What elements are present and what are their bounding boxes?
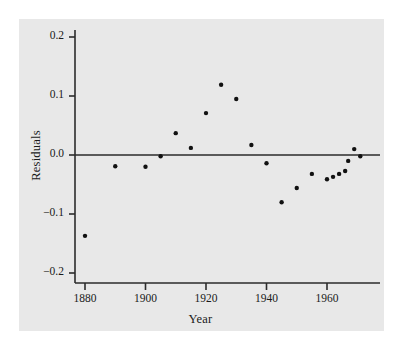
x-tick-label: 1920 [176,292,236,304]
axes-group [75,30,380,283]
data-point [279,200,283,204]
data-point [143,165,147,169]
y-axis-title: Residuals [29,111,44,201]
x-tick-label: 1880 [55,292,115,304]
data-point [234,97,238,101]
data-point [204,111,208,115]
data-point [264,161,268,165]
data-point [352,147,356,151]
data-point [158,154,162,158]
y-tick-label: −0.2 [12,265,64,277]
data-point [337,172,341,176]
residuals-scatter-figure: 0.20.10.0−0.1−0.2 18801900192019401960 R… [0,0,401,350]
x-axis-title: Year [0,312,401,327]
data-point [343,169,347,173]
data-point [113,164,117,168]
data-point [295,186,299,190]
data-point [331,175,335,179]
x-tick-label: 1940 [237,292,297,304]
data-point [83,234,87,238]
data-point [346,159,350,163]
y-tick-label: 0.1 [12,88,64,100]
data-point [219,83,223,87]
x-axis-ticks [85,283,327,290]
y-tick-label: −0.1 [12,206,64,218]
data-point [249,143,253,147]
x-tick-label: 1900 [116,292,176,304]
data-points-group [83,83,363,238]
data-point [174,131,178,135]
data-point [358,154,362,158]
data-point [189,146,193,150]
data-point [310,172,314,176]
y-tick-label: 0.2 [12,29,64,41]
y-axis-ticks [69,37,75,273]
x-tick-label: 1960 [297,292,357,304]
data-point [325,177,329,181]
